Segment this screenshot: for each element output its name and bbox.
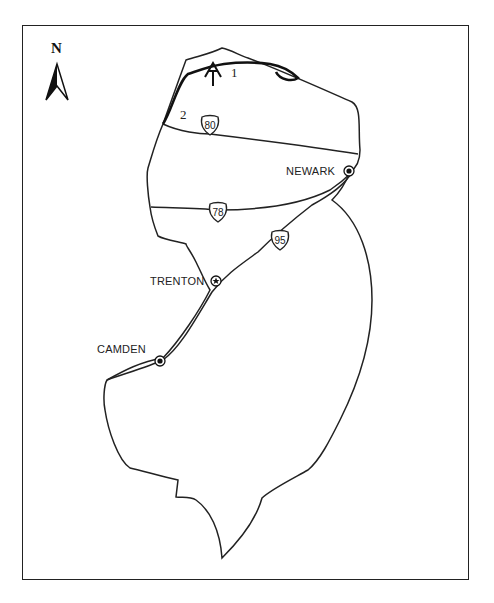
interstate-80-route <box>163 124 358 154</box>
svg-text:95: 95 <box>274 235 286 246</box>
trail-marker-1: 1 <box>231 65 238 81</box>
svg-text:80: 80 <box>204 120 216 131</box>
newark-city-dot-icon <box>344 166 354 176</box>
interstate-95-shield-icon: 95 <box>271 231 288 251</box>
new-jersey-map: 80 78 95 <box>0 0 494 603</box>
trenton-capital-star-icon <box>211 276 221 286</box>
interstate-80-shield-icon: 80 <box>201 116 218 136</box>
north-arrow-icon <box>46 64 68 100</box>
camden-city-dot-icon <box>155 356 165 366</box>
north-label: N <box>51 40 62 57</box>
trail-marker-2: 2 <box>180 107 187 123</box>
camden-label: CAMDEN <box>97 343 146 355</box>
interstate-78-shield-icon: 78 <box>209 203 226 223</box>
state-outline <box>104 48 372 558</box>
interstate-78-route <box>151 172 352 210</box>
trenton-label: TRENTON <box>150 275 204 287</box>
newark-label: NEWARK <box>286 165 335 177</box>
svg-text:78: 78 <box>212 207 224 218</box>
